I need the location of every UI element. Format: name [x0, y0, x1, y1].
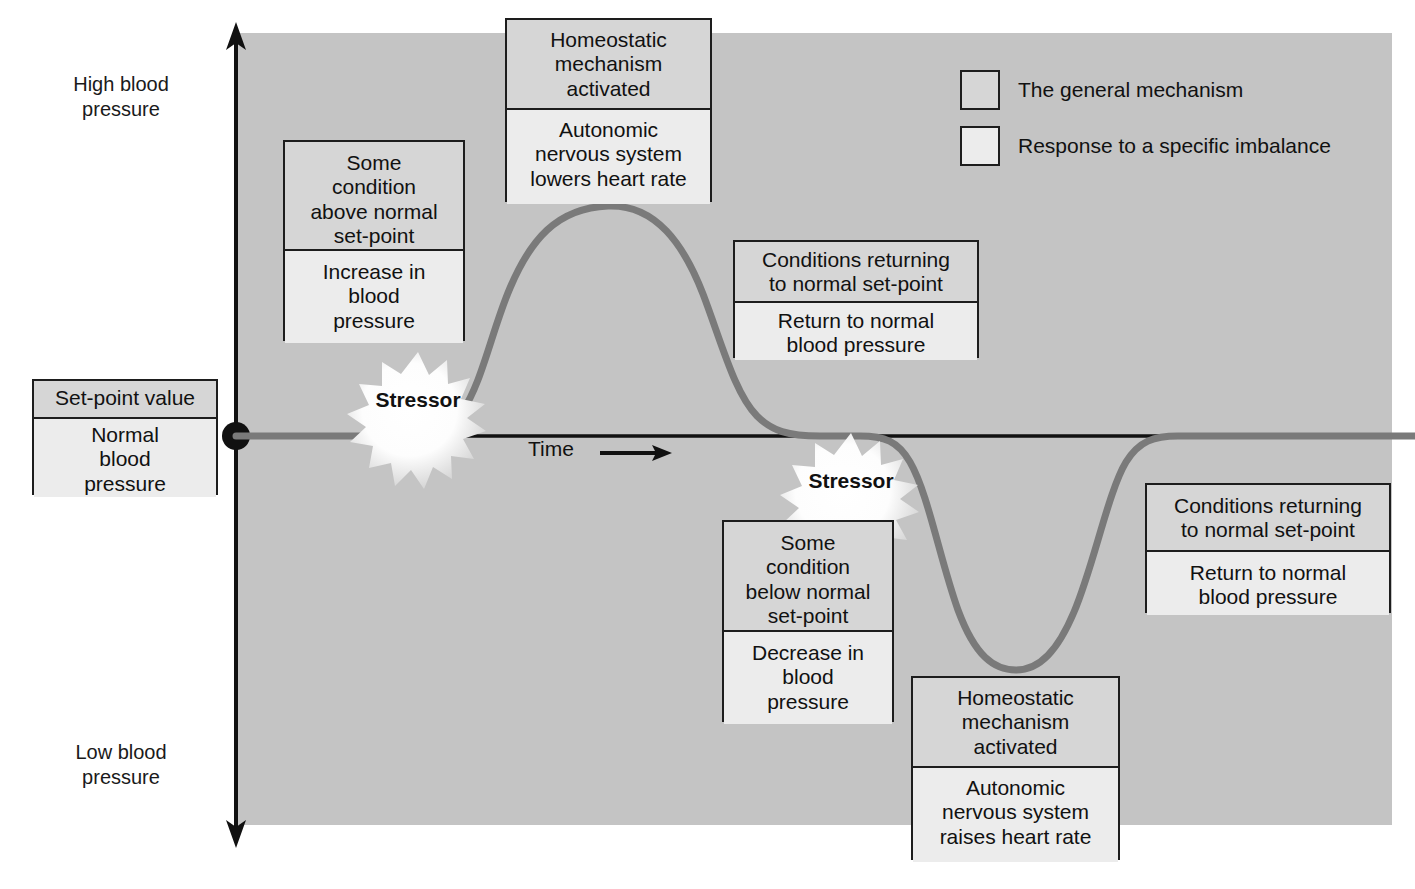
stressor-label-2: Stressor [785, 433, 917, 529]
setpoint-box-specific-text: Normal blood pressure [34, 417, 216, 497]
x-axis-label-time: Time [528, 437, 574, 461]
legend: The general mechanism Response to a spec… [960, 70, 1331, 182]
condition-above-general-text: Some condition above normal set-point [285, 142, 463, 249]
condition-below-specific-text: Decrease in blood pressure [724, 630, 892, 724]
stressor-2-text: Stressor [785, 433, 917, 529]
condition-below-general-text: Some condition below normal set-point [724, 522, 892, 630]
diagram-canvas: High blood pressure Low blood pressure T… [0, 0, 1415, 889]
returning-lower-box: Conditions returning to normal set-point… [1145, 483, 1391, 613]
condition-above-specific-text: Increase in blood pressure [285, 249, 463, 343]
stressor-label-1: Stressor [352, 352, 484, 448]
setpoint-value-box: Set-point value Normal blood pressure [32, 379, 218, 495]
returning-lower-specific-text: Return to normal blood pressure [1147, 550, 1389, 615]
returning-lower-general-text: Conditions returning to normal set-point [1147, 485, 1389, 550]
returning-upper-general-text: Conditions returning to normal set-point [735, 242, 977, 301]
time-arrow-icon [600, 445, 672, 461]
mechanism-lower-general-text: Homeostatic mechanism activated [913, 678, 1118, 766]
legend-label-specific: Response to a specific imbalance [1018, 134, 1331, 158]
legend-swatch-specific-icon [960, 126, 1000, 166]
mechanism-upper-general-text: Homeostatic mechanism activated [507, 20, 710, 108]
mechanism-lower-box: Homeostatic mechanism activated Autonomi… [911, 676, 1120, 860]
condition-below-box: Some condition below normal set-point De… [722, 520, 894, 722]
condition-above-box: Some condition above normal set-point In… [283, 140, 465, 341]
stressor-1-text: Stressor [352, 352, 484, 448]
returning-upper-specific-text: Return to normal blood pressure [735, 301, 977, 360]
returning-upper-box: Conditions returning to normal set-point… [733, 240, 979, 358]
y-axis-label-high: High blood pressure [36, 72, 206, 122]
mechanism-lower-specific-text: Autonomic nervous system raises heart ra… [913, 766, 1118, 862]
legend-label-general: The general mechanism [1018, 78, 1243, 102]
legend-item-general: The general mechanism [960, 70, 1331, 110]
y-axis-label-low: Low blood pressure [36, 740, 206, 790]
setpoint-box-general-text: Set-point value [34, 381, 216, 417]
legend-swatch-general-icon [960, 70, 1000, 110]
mechanism-upper-specific-text: Autonomic nervous system lowers heart ra… [507, 108, 710, 204]
mechanism-upper-box: Homeostatic mechanism activated Autonomi… [505, 18, 712, 202]
legend-item-specific: Response to a specific imbalance [960, 126, 1331, 166]
